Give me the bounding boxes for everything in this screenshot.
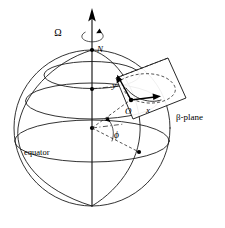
equator-label: equator: [24, 147, 50, 157]
meridian-left: [18, 50, 92, 206]
spin-arc-arrowhead: [96, 29, 102, 34]
beta-plane-diagram: Ω N O x y ϕ equator β-plane: [0, 0, 225, 228]
rotation-axis-group: [82, 8, 103, 206]
omega-label: Ω: [54, 27, 61, 38]
phi-radius-to-origin: [92, 101, 129, 128]
phi-label: ϕ: [114, 130, 119, 140]
origin-label: O: [125, 106, 132, 116]
equator-point-dot: [137, 150, 141, 154]
x-axis-label: x: [145, 105, 150, 115]
y-axis-label: y: [111, 80, 116, 90]
figure-container: Ω N O x y ϕ equator β-plane: [0, 0, 225, 228]
north-pole-dot: [90, 48, 94, 52]
beta-plane-label: β-plane: [176, 112, 203, 122]
north-pole-label: N: [96, 44, 104, 54]
phi-arc-arrowhead: [105, 116, 110, 122]
phi-angle-arc: [107, 118, 113, 141]
